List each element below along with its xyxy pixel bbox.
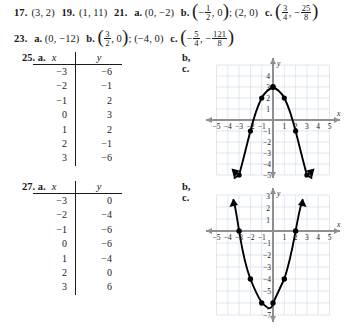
curve-arrow-left (230, 199, 239, 208)
cell-y: −6 (76, 223, 123, 237)
answer-23-c-y-sign: − (206, 33, 212, 44)
svg-text:−4: −4 (224, 122, 232, 131)
svg-text:−5: −5 (263, 287, 271, 296)
table-row: 3−6 (33, 151, 122, 165)
svg-text:3: 3 (305, 122, 309, 131)
svg-text:5: 5 (328, 233, 332, 242)
answer-23-part-c-label: c. (170, 33, 178, 44)
svg-text:−4: −4 (263, 160, 271, 169)
svg-text:1: 1 (266, 105, 270, 114)
problem-number-27: 27. (22, 181, 35, 192)
svg-text:−3: −3 (235, 122, 243, 131)
svg-text:4: 4 (316, 122, 320, 131)
svg-text:4: 4 (316, 233, 320, 242)
problem-27-part-a-label: a. (38, 181, 46, 192)
fraction-three-fourths: 34 (282, 4, 288, 22)
cell-y: −6 (76, 151, 123, 165)
answer-21-c-y-sign: − (294, 7, 300, 18)
cell-x: −2 (33, 79, 76, 93)
column-header-y: y (76, 52, 123, 65)
cell-y: −1 (76, 79, 123, 93)
answer-17-value: (3, 2) (31, 7, 54, 18)
table-row: 2−1 (33, 137, 122, 151)
svg-text:−4: −4 (224, 233, 232, 242)
answer-key-page: 17.(3, 2) 19.(1, 11) 21. a.(0, −2) b.(−1… (0, 0, 346, 329)
cell-y: 3 (76, 108, 123, 122)
fraction-three-halves: 32 (104, 30, 110, 48)
svg-text:1: 1 (266, 216, 270, 225)
cell-x: −3 (33, 65, 76, 80)
svg-text:−7: −7 (263, 311, 271, 320)
problem-25-graph-label: b, c. (182, 52, 190, 74)
svg-text:−3: −3 (263, 263, 271, 272)
cell-y: −1 (76, 137, 123, 151)
svg-text:3: 3 (266, 192, 270, 201)
svg-text:3: 3 (305, 233, 309, 242)
svg-text:2: 2 (266, 94, 270, 103)
answer-19-value: (1, 11) (79, 7, 107, 18)
cell-y: −4 (76, 252, 123, 266)
table-row: 20 (33, 266, 122, 280)
parabola-up-chart: −5 −4 −3 −2 −1 1 2 3 4 5 3 2 1 −1 −2 (200, 185, 346, 325)
cell-x: −1 (33, 94, 76, 108)
cell-x: 3 (33, 151, 76, 165)
svg-text:1: 1 (282, 122, 286, 131)
table-header-row: x y (33, 181, 122, 194)
answer-21-b-second: ; (2, 0) (229, 7, 258, 18)
svg-text:−5: −5 (263, 171, 271, 180)
problem-27-plot: −5 −4 −3 −2 −1 1 2 3 4 5 3 2 1 −1 −2 (200, 185, 346, 325)
svg-text:−1: −1 (263, 239, 271, 248)
svg-text:4: 4 (266, 72, 270, 81)
svg-text:2: 2 (266, 204, 270, 213)
answer-23-b-rest: , 0 (111, 33, 122, 44)
table-row: 0−6 (33, 237, 122, 251)
table-row: 36 (33, 280, 122, 294)
y-tick-labels: 3 2 1 −1 −2 −3 −4 −5 −7 (263, 192, 271, 320)
problem-number-21: 21. (114, 7, 127, 18)
cell-x: 0 (33, 108, 76, 122)
answer-21-part-a: (0, −2) (145, 7, 174, 18)
svg-text:−1: −1 (263, 127, 271, 136)
cell-x: 0 (33, 237, 76, 251)
answer-21-b-sign: − (198, 7, 204, 18)
cell-y: 2 (76, 94, 123, 108)
problem-number-19: 19. (62, 7, 75, 18)
answer-line-23: 23. a.(0, −12) b.(32, 0); (−4, 0) c.(−54… (14, 30, 342, 48)
problem-number-23: 23. (14, 33, 27, 44)
column-header-y: y (76, 181, 123, 194)
cell-y: 0 (76, 266, 123, 280)
cell-y: 2 (76, 123, 123, 137)
problem-27-table-block: 27.a. x y −30 −2−4 −1−6 0−6 1−4 20 36 (22, 181, 122, 295)
table-row: −1−6 (33, 223, 122, 237)
x-axis-label: x (336, 220, 341, 229)
problem-27-xy-table: x y −30 −2−4 −1−6 0−6 1−4 20 36 (33, 181, 122, 295)
curve-arrow-right (298, 199, 307, 208)
cell-x: 2 (33, 137, 76, 151)
cell-x: 1 (33, 252, 76, 266)
table-row: −3−6 (33, 65, 122, 80)
svg-text:−5: −5 (213, 233, 221, 242)
cell-y: −6 (76, 65, 123, 80)
cell-x: 2 (33, 266, 76, 280)
answer-line-17-21: 17.(3, 2) 19.(1, 11) 21. a.(0, −2) b.(−1… (14, 4, 342, 22)
cell-y: −4 (76, 208, 123, 222)
fraction-onetwentyone-eighths: 1218 (212, 30, 227, 48)
problem-25-table-block: 25.a. x y −3−6 −2−1 −12 03 12 2−1 3−6 (22, 52, 122, 166)
fraction-twentyfive-eighths: 258 (301, 4, 312, 22)
answer-23-b-second: ; (−4, 0) (128, 33, 163, 44)
y-axis-label: y (276, 59, 281, 68)
table-row: 12 (33, 123, 122, 137)
problem-number-17: 17. (14, 7, 27, 18)
cell-y: −6 (76, 237, 123, 251)
problem-25-part-a-label: a. (38, 52, 46, 63)
problem-25-xy-table: x y −3−6 −2−1 −12 03 12 2−1 3−6 (33, 52, 122, 166)
table-row: −2−1 (33, 79, 122, 93)
x-axis-label: x (336, 109, 341, 118)
svg-text:−2: −2 (246, 233, 254, 242)
problem-27-graph-label: b, c. (182, 181, 190, 203)
answer-21-part-a-label: a. (134, 7, 142, 18)
answer-23-c-x-sign: − (187, 33, 193, 44)
svg-text:−2: −2 (263, 138, 271, 147)
cell-y: 6 (76, 280, 123, 294)
fraction-one-half: 12 (205, 4, 211, 22)
